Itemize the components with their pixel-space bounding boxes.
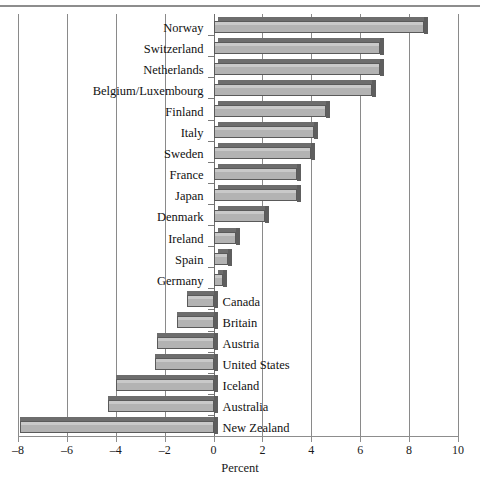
gridline--4 xyxy=(116,14,117,436)
bar-bevel-side xyxy=(424,17,428,34)
x-tick-label--4: –4 xyxy=(96,443,136,458)
x-tick-label-6: 6 xyxy=(340,443,380,458)
category-label-canada: Canada xyxy=(223,296,480,309)
bar-bevel-side xyxy=(326,101,330,118)
bar-bevel-top xyxy=(218,59,384,63)
bar-bevel-top xyxy=(177,312,214,316)
bar-sheen xyxy=(215,64,379,67)
bar-bevel-side xyxy=(214,333,218,350)
bar-bevel-top xyxy=(108,396,213,400)
bar-austria xyxy=(157,337,213,349)
x-tick-label-0: 0 xyxy=(194,443,234,458)
y-tick-14 xyxy=(208,331,214,332)
y-tick-0 xyxy=(208,35,214,36)
bar-sheen xyxy=(215,127,313,130)
bar-bevel-side xyxy=(214,312,218,329)
bar-sheen xyxy=(215,275,223,278)
x-tick-10 xyxy=(458,436,459,442)
y-tick-6 xyxy=(208,162,214,163)
bar-sheen xyxy=(109,401,212,404)
bar-sheen xyxy=(215,85,372,88)
bar-bevel-top xyxy=(218,80,377,84)
bar-bevel-top xyxy=(218,122,318,126)
percent-change-bar-chart: NorwaySwitzerlandNetherlandsBelgium/Luxe… xyxy=(0,0,480,483)
gridline-8 xyxy=(409,14,410,436)
category-label-denmark: Denmark xyxy=(0,211,204,224)
category-label-finland: Finland xyxy=(0,106,204,119)
figure-top-rule xyxy=(0,5,480,7)
bar-bevel-side xyxy=(380,38,384,55)
category-label-belgium-luxembourg: Belgium/Luxembourg xyxy=(0,85,204,98)
y-tick-2 xyxy=(208,77,214,78)
y-tick-16 xyxy=(208,373,214,374)
bar-sweden xyxy=(214,147,312,159)
category-label-austria: Austria xyxy=(223,338,480,351)
bar-sheen xyxy=(215,169,296,172)
y-tick-5 xyxy=(208,141,214,142)
bar-bevel-side xyxy=(214,375,218,392)
x-tick--6 xyxy=(67,436,68,442)
bar-bevel-side xyxy=(311,143,315,160)
gridline--2 xyxy=(165,14,166,436)
bar-sheen xyxy=(158,338,212,341)
bar-bevel-side xyxy=(214,417,218,434)
bar-bevel-side xyxy=(214,291,218,308)
category-label-italy: Italy xyxy=(0,127,204,140)
x-tick-label--2: –2 xyxy=(145,443,185,458)
bar-bevel-top xyxy=(187,291,214,295)
y-tick-11 xyxy=(208,267,214,268)
bar-canada xyxy=(187,295,214,307)
x-tick--2 xyxy=(165,436,166,442)
bar-bevel-side xyxy=(214,354,218,371)
bar-australia xyxy=(108,400,213,412)
category-label-britain: Britain xyxy=(223,317,480,330)
bar-bevel-top xyxy=(218,185,301,189)
category-label-switzerland: Switzerland xyxy=(0,43,204,56)
bar-bevel-top xyxy=(218,101,330,105)
bar-sheen xyxy=(215,190,296,193)
gridline-4 xyxy=(311,14,312,436)
bar-united-states xyxy=(155,358,214,370)
bar-italy xyxy=(214,126,314,138)
bar-bevel-side xyxy=(380,59,384,76)
category-label-japan: Japan xyxy=(0,190,204,203)
category-label-france: France xyxy=(0,169,204,182)
bar-sheen xyxy=(21,422,212,425)
category-label-norway: Norway xyxy=(0,22,204,35)
bar-britain xyxy=(177,316,214,328)
y-tick-13 xyxy=(208,309,214,310)
bar-sheen xyxy=(215,211,264,214)
bar-bevel-side xyxy=(223,270,227,287)
bar-japan xyxy=(214,189,297,201)
bar-sheen xyxy=(215,233,235,236)
bar-bevel-side xyxy=(214,396,218,413)
x-tick-label-10: 10 xyxy=(438,443,478,458)
bar-sheen xyxy=(215,106,325,109)
bar-denmark xyxy=(214,210,265,222)
category-label-iceland: Iceland xyxy=(223,380,480,393)
y-tick-3 xyxy=(208,98,214,99)
bar-bevel-side xyxy=(228,249,232,266)
bar-bevel-side xyxy=(297,185,301,202)
y-tick-10 xyxy=(208,246,214,247)
y-tick-18 xyxy=(208,415,214,416)
bar-iceland xyxy=(116,379,214,391)
bar-switzerland xyxy=(214,42,380,54)
category-label-united-states: United States xyxy=(223,359,480,372)
x-tick-8 xyxy=(409,436,410,442)
bar-sheen xyxy=(215,22,423,25)
bar-bevel-top xyxy=(116,375,214,379)
x-axis-title: Percent xyxy=(0,461,480,476)
bar-new-zealand xyxy=(20,421,213,433)
bar-bevel-top xyxy=(218,143,316,147)
bar-bevel-side xyxy=(297,164,301,181)
bar-ireland xyxy=(214,232,236,244)
gridline-6 xyxy=(360,14,361,436)
y-tick-15 xyxy=(208,352,214,353)
category-label-sweden: Sweden xyxy=(0,148,204,161)
x-tick--4 xyxy=(116,436,117,442)
category-label-netherlands: Netherlands xyxy=(0,64,204,77)
bar-bevel-top xyxy=(218,206,269,210)
x-tick-label--8: –8 xyxy=(0,443,38,458)
bar-bevel-top xyxy=(157,333,213,337)
